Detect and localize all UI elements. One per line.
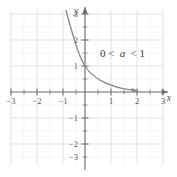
- x-tick-label-2: 2: [135, 96, 139, 106]
- y-tick-label-1: 1: [74, 61, 78, 71]
- x-tick-label-neg2: −2: [32, 96, 41, 106]
- exponential-decay-graph-figure: −3 −2 −1 1 2 3 3 2 1 −1 −2 −3 −3 y y x 0…: [0, 0, 177, 177]
- axes: [10, 7, 168, 170]
- y-axis-tick-labels: 3 2 1 −1 −2 −3: [69, 9, 78, 162]
- y-tick-label-neg1: −1: [69, 113, 78, 123]
- y-axis-arrowhead: [82, 7, 87, 14]
- major-gridlines: [11, 10, 163, 165]
- x-tick-label-3: 3: [161, 96, 165, 106]
- x-axis-tick-labels: −3 −2 −1 1 2 3: [6, 96, 165, 106]
- x-tick-label-neg3: −3: [6, 96, 15, 106]
- y-tick-label-neg3: −3: [69, 152, 78, 162]
- plot-canvas: −3 −2 −1 1 2 3 3 2 1 −1 −2 −3 −3 y y x 0…: [0, 0, 177, 177]
- minor-gridlines: [11, 10, 163, 165]
- condition-prefix: 0 <: [100, 47, 114, 59]
- condition-variable: a: [120, 47, 126, 59]
- condition-suffix: < 1: [130, 47, 144, 59]
- x-axis-title: x: [166, 93, 172, 103]
- y-axis-title: y: [73, 6, 79, 16]
- condition-annotation: 0 < a < 1: [100, 47, 145, 59]
- y-tick-label-neg2: −2: [69, 139, 78, 149]
- x-tick-label-1: 1: [109, 96, 113, 106]
- x-tick-label-neg1: −1: [58, 96, 67, 106]
